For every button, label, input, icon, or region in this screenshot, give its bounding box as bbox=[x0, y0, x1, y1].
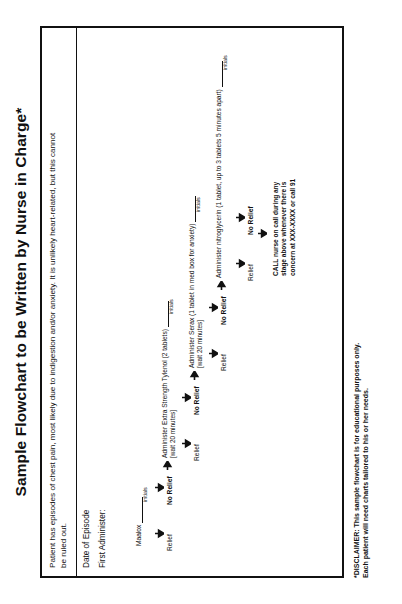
arrow-nitro-relief bbox=[236, 257, 245, 270]
arrow-tylenol-relief bbox=[182, 437, 191, 450]
outcome-tylenol-relief: Relief bbox=[193, 444, 200, 461]
stage-serax-med: Administer Serax (1 tablet in med box fo… bbox=[187, 196, 196, 368]
header-divider bbox=[76, 28, 77, 576]
document-page: Sample Flowchart to be Written by Nurse … bbox=[0, 0, 402, 604]
date-of-episode-label: Date of Episode bbox=[82, 510, 91, 568]
outcome-serax-relief: Relief bbox=[220, 354, 227, 371]
outcome-maalox-norelief: No Relief bbox=[166, 476, 173, 505]
stage-maalox-med: Maalox bbox=[134, 497, 143, 546]
arrow-tylenol-norelief bbox=[182, 391, 191, 404]
disclaimer: *DISCLAIMER: This sample flowchart is fo… bbox=[352, 158, 371, 578]
disclaimer-line-2: Each patient will need charts tailored t… bbox=[361, 158, 370, 578]
initials-caption-nitro: initials bbox=[222, 55, 228, 70]
screenshot-viewport: Sample Flowchart to be Written by Nurse … bbox=[0, 0, 402, 604]
arrow-maalox-to-tylenol bbox=[161, 461, 174, 470]
outcome-nitro-norelief: No Relief bbox=[247, 206, 254, 235]
stage-serax-wait: [wait 20 minutes] bbox=[196, 320, 203, 368]
stage-nitro-med: Administer nitroglycerin (1 tablet, up t… bbox=[214, 61, 223, 278]
rotated-page: Sample Flowchart to be Written by Nurse … bbox=[0, 0, 402, 604]
outcome-maalox-relief: Relief bbox=[166, 534, 173, 551]
arrow-nitro-norelief bbox=[236, 211, 245, 224]
outcome-serax-norelief: No Relief bbox=[220, 296, 227, 325]
initials-caption-maalox: initials bbox=[142, 487, 148, 502]
arrow-nitro-to-call bbox=[258, 227, 267, 240]
arrow-tylenol-to-serax bbox=[188, 371, 201, 380]
arrow-serax-relief bbox=[209, 347, 218, 360]
initials-caption-serax: initials bbox=[195, 197, 201, 212]
flowchart-frame: Patient has episodes of chest pain, most… bbox=[40, 26, 344, 578]
final-call-action: CALL nurse on call during any stage abov… bbox=[272, 164, 297, 276]
initials-caption-tylenol: initials bbox=[168, 299, 174, 314]
intro-paragraph: Patient has episodes of chest pain, most… bbox=[48, 128, 69, 568]
stage-tylenol-med: Administer Extra Strength Tylenol (2 tab… bbox=[160, 301, 169, 458]
page-title: Sample Flowchart to be Written by Nurse … bbox=[12, 0, 30, 604]
arrow-maalox-relief bbox=[155, 527, 164, 540]
disclaimer-line-1: *DISCLAIMER: This sample flowchart is fo… bbox=[352, 158, 361, 578]
outcome-tylenol-norelief: No Relief bbox=[193, 386, 200, 415]
arrow-serax-norelief bbox=[209, 301, 218, 314]
stage-tylenol-wait: [wait 20 minutes] bbox=[169, 410, 176, 458]
arrow-serax-to-nitro bbox=[215, 281, 228, 290]
arrow-maalox-norelief bbox=[155, 481, 164, 494]
outcome-nitro-relief: Relief bbox=[247, 264, 254, 281]
first-administer-label: First Administer: bbox=[98, 509, 107, 568]
